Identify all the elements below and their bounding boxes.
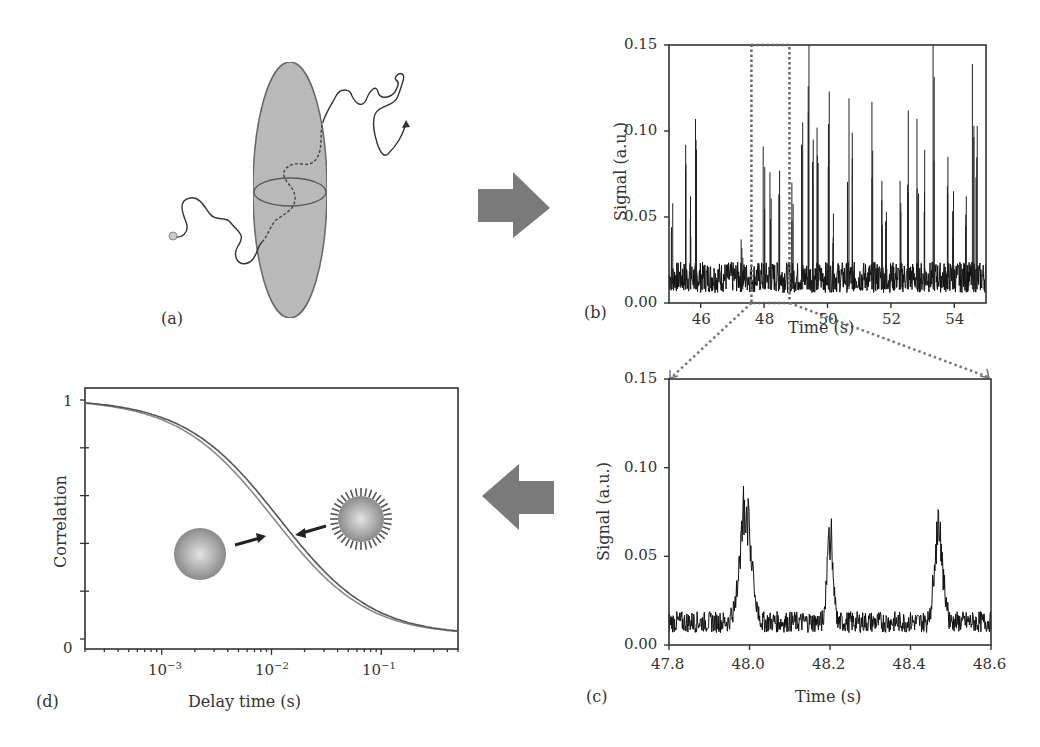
chart-b-ytick: 0.15 <box>624 35 657 53</box>
trajectory-inside <box>262 122 323 242</box>
focal-volume <box>253 62 327 318</box>
panel-label-d: (d) <box>36 692 59 711</box>
coated-particle-icon <box>338 496 384 542</box>
chart-d-xtick-1e-2: 10−2 <box>255 660 289 679</box>
trajectory-arrowhead-icon <box>402 120 410 128</box>
chart-b-ytick: 0.10 <box>624 121 657 139</box>
chart-b-xtick: 54 <box>945 310 964 328</box>
chart-c-xtick: 47.8 <box>651 655 684 673</box>
focal-cross-section <box>254 178 326 206</box>
chart-c-ytick: 0.10 <box>624 458 657 476</box>
chart-c-ytick: 0.00 <box>624 635 657 653</box>
diffusion-diagram <box>0 0 1040 747</box>
chart-c-xtick: 48.6 <box>973 655 1006 673</box>
chart-c-xtick: 48.4 <box>893 655 926 673</box>
bare-particle-icon <box>174 528 226 580</box>
chart-d-ytick-1: 1 <box>63 392 73 410</box>
chart-c-xlabel: Time (s) <box>795 687 861 706</box>
trajectory-left <box>172 198 262 264</box>
molecule-start <box>169 232 177 240</box>
panel-label-a: (a) <box>161 309 183 328</box>
chart-c-ylabel: Signal (a.u.) <box>594 452 613 572</box>
chart-c-ytick: 0.05 <box>624 546 657 564</box>
chart-d-xtick-1e-3: 10−3 <box>148 660 182 679</box>
chart-b-plot <box>0 0 1040 747</box>
chart-b-ytick: 0.00 <box>624 293 657 311</box>
panel-label-c: (c) <box>586 687 607 706</box>
chart-d-xtick-1e-1: 10−1 <box>362 660 396 679</box>
chart-b-ytick: 0.05 <box>624 207 657 225</box>
trajectory-right <box>323 74 406 156</box>
chart-d-ylabel: Correlation <box>51 462 70 582</box>
chart-d-plot <box>0 0 1040 747</box>
left-arrow-icon <box>478 464 558 534</box>
chart-c-xtick: 48.0 <box>732 655 765 673</box>
chart-d-xlabel: Delay time (s) <box>188 692 301 711</box>
chart-b-xtick: 52 <box>882 310 901 328</box>
chart-c-ytick: 0.15 <box>624 369 657 387</box>
chart-c-xtick: 48.2 <box>812 655 845 673</box>
chart-c-plot <box>0 0 1040 747</box>
chart-b-xtick: 46 <box>692 310 711 328</box>
chart-b-xtick: 50 <box>819 310 838 328</box>
panel-label-b: (b) <box>584 303 607 322</box>
right-arrow-icon <box>478 172 558 242</box>
chart-b-xtick: 48 <box>755 310 774 328</box>
chart-d-ytick-0: 0 <box>63 639 73 657</box>
